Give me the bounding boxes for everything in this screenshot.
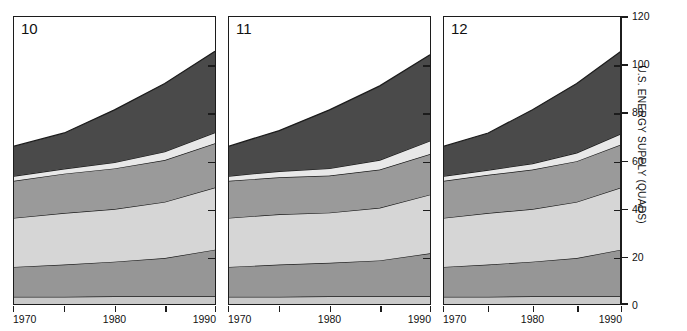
- panel-ytick-40: [208, 210, 216, 212]
- panel-ytick-20: [208, 258, 216, 260]
- stacked-area-plot-11: [229, 17, 430, 304]
- stacked-area-plot-12: [444, 17, 621, 304]
- x-tick-1990: [621, 306, 622, 312]
- panel-label-11: 11: [236, 21, 252, 36]
- y-axis-tick-80: [620, 112, 628, 114]
- area-band-1: [14, 296, 215, 304]
- panel-ytick-40: [423, 210, 431, 212]
- chart-panel-10: 10: [13, 16, 216, 305]
- x-tick-1980: [330, 306, 331, 312]
- panel-label-12: 12: [451, 21, 468, 36]
- chart-panel-12: 12: [443, 16, 622, 305]
- y-axis-tick-60: [620, 161, 628, 163]
- panel-ytick-80: [423, 113, 431, 115]
- y-axis-tick-100: [620, 64, 628, 66]
- x-tick-1975: [279, 306, 280, 312]
- x-tick-1990: [430, 306, 431, 312]
- x-tick-1990: [215, 306, 216, 312]
- x-tick-1970: [443, 306, 444, 312]
- x-axis-label-1990: 1990: [193, 313, 216, 325]
- stacked-area-plot-10: [14, 17, 215, 304]
- x-axis-label-1990: 1990: [408, 313, 431, 325]
- panel-ytick-100: [208, 65, 216, 67]
- area-band-1: [444, 296, 621, 304]
- y-axis-tick-0: [620, 303, 628, 305]
- x-axis-label-1970: 1970: [228, 313, 251, 325]
- x-tick-1985: [165, 306, 166, 312]
- x-tick-1970: [13, 306, 14, 312]
- y-axis-title: U.S. ENERGY SUPPLY (QUADS): [632, 0, 652, 289]
- x-axis-panel-12: 197019801990: [443, 306, 622, 328]
- x-axis-label-1980: 1980: [318, 313, 341, 325]
- panel-ytick-60: [208, 162, 216, 164]
- panel-ytick-20: [423, 258, 431, 260]
- x-tick-1975: [488, 306, 489, 312]
- x-tick-1980: [115, 306, 116, 312]
- figure-canvas: 10 11 12 197019801990 197019801990 19701…: [0, 0, 687, 331]
- x-tick-1980: [533, 306, 534, 312]
- x-tick-1985: [577, 306, 578, 312]
- y-axis-tick-40: [620, 209, 628, 211]
- y-axis-tick-120: [620, 16, 628, 18]
- area-band-1: [229, 296, 430, 304]
- x-tick-1985: [380, 306, 381, 312]
- x-axis-label-1980: 1980: [103, 313, 126, 325]
- panel-ytick-80: [208, 113, 216, 115]
- panel-ytick-60: [423, 162, 431, 164]
- panel-ytick-100: [423, 65, 431, 67]
- y-axis-tick-20: [620, 257, 628, 259]
- x-axis-label-1970: 1970: [443, 313, 466, 325]
- x-axis-panel-10: 197019801990: [13, 306, 216, 328]
- x-axis-label-1980: 1980: [521, 313, 544, 325]
- x-tick-1970: [228, 306, 229, 312]
- panel-label-10: 10: [21, 21, 38, 36]
- chart-panel-11: 11: [228, 16, 431, 305]
- x-axis-label-1990: 1990: [599, 313, 622, 325]
- x-axis-label-1970: 1970: [13, 313, 36, 325]
- x-axis-panel-11: 197019801990: [228, 306, 431, 328]
- y-axis-label-0: 0: [632, 299, 638, 311]
- x-tick-1975: [64, 306, 65, 312]
